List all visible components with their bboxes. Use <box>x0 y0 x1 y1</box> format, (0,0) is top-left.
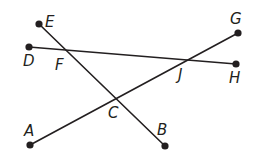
point-b-dot <box>161 142 168 149</box>
point-d-dot <box>25 43 32 50</box>
geometry-diagram: EDGHABFJC <box>0 0 261 160</box>
label-a: A <box>23 122 34 140</box>
label-c: C <box>108 104 119 122</box>
segments-group <box>29 24 238 146</box>
point-h-dot <box>232 60 239 67</box>
label-d: D <box>23 52 35 70</box>
label-e: E <box>45 13 55 31</box>
label-j: J <box>175 66 182 84</box>
label-f: F <box>55 56 64 74</box>
label-g: G <box>230 10 242 28</box>
point-e-dot <box>35 20 42 27</box>
segment-eb <box>39 24 165 146</box>
point-g-dot <box>234 29 241 36</box>
label-b: B <box>157 121 167 139</box>
label-h: H <box>229 69 240 87</box>
point-a-dot <box>26 141 33 148</box>
labels-group: EDGHABFJC <box>23 10 242 140</box>
